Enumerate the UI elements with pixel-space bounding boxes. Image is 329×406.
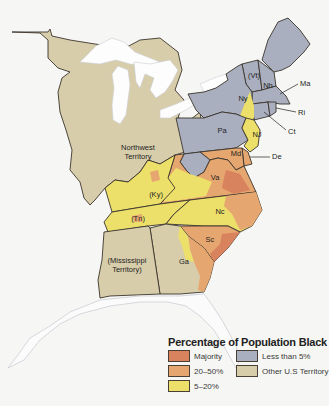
label-mississippi-line2: Territory): [112, 265, 142, 274]
legend-label-less-than-5: Less than 5%: [262, 352, 310, 361]
label-nh: Nh: [263, 81, 273, 90]
label-ga: Ga: [179, 257, 190, 266]
label-mississippi-line1: (Mississippi: [108, 256, 147, 265]
leader-ct: [264, 112, 286, 130]
legend-grid: Majority Less than 5% 20–50% Other U.S T…: [168, 350, 320, 392]
legend-item-other-territory: Other U.S Territory: [236, 365, 320, 377]
leader-ri: [276, 108, 296, 112]
label-northwest-line2: Territory: [124, 152, 151, 161]
label-northwest-line1: Northwest: [121, 143, 156, 152]
swatch-majority: [168, 350, 190, 362]
legend-title: Percentage of Population Black: [168, 336, 320, 348]
label-ri: Ri: [298, 108, 305, 117]
swatch-20-50: [168, 365, 190, 377]
label-de: De: [272, 152, 282, 161]
legend-item-less-than-5: Less than 5%: [236, 350, 320, 362]
swatch-5-20: [168, 380, 190, 392]
label-pa: Pa: [217, 126, 227, 135]
legend-item-20-50: 20–50%: [168, 365, 236, 377]
label-va: Va: [211, 173, 220, 182]
label-sc: Sc: [206, 235, 215, 244]
label-nc: Nc: [215, 207, 224, 216]
legend: Percentage of Population Black Majority …: [168, 336, 320, 392]
label-ct: Ct: [288, 127, 296, 136]
label-md: Md: [231, 149, 241, 158]
label-nj: NJ: [252, 130, 261, 139]
region-maine: [262, 18, 310, 72]
legend-label-5-20: 5–20%: [194, 382, 219, 391]
label-ny: Ny: [238, 94, 247, 103]
region-connecticut: [252, 102, 270, 120]
legend-label-majority: Majority: [194, 352, 222, 361]
legend-item-majority: Majority: [168, 350, 236, 362]
label-ky: (Ky): [149, 190, 163, 199]
swatch-other-territory: [236, 365, 258, 377]
label-tn: (Tn): [131, 214, 145, 223]
legend-label-20-50: 20–50%: [194, 367, 223, 376]
legend-item-5-20: 5–20%: [168, 380, 236, 392]
label-vt: (Vt): [248, 71, 261, 80]
label-ma: Ma: [300, 79, 311, 88]
leader-ma: [280, 84, 298, 94]
legend-label-other-territory: Other U.S Territory: [262, 367, 329, 376]
swatch-less-than-5: [236, 350, 258, 362]
